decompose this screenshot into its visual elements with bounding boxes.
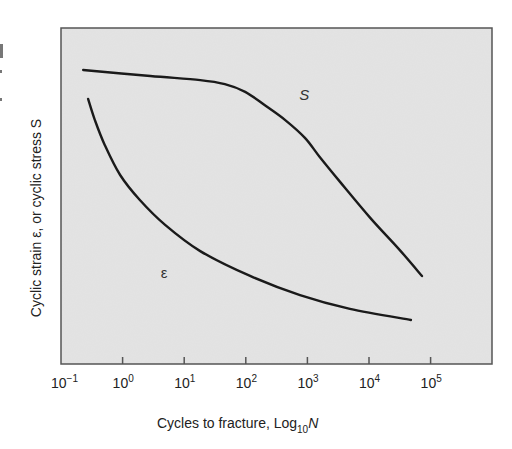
plot-texture bbox=[61, 28, 492, 364]
y-axis-title: Cyclic strain ε, or cyclic stress S bbox=[28, 119, 44, 317]
x-axis-title: Cycles to fracture, Log10N bbox=[157, 415, 319, 435]
x-axis-title-var: N bbox=[308, 415, 319, 431]
curve-label-s: S bbox=[299, 86, 309, 103]
x-tick-label: 102 bbox=[236, 373, 258, 391]
x-axis-title-main: Cycles to fracture, Log bbox=[157, 415, 297, 431]
x-tick-label: 103 bbox=[297, 373, 319, 391]
x-tick-label: 10−1 bbox=[51, 373, 78, 391]
fatigue-chart: 10−1100101102103104105 S ε Cyclic strain… bbox=[0, 0, 512, 449]
x-tick-label: 100 bbox=[113, 373, 135, 391]
x-tick-label: 105 bbox=[421, 373, 443, 391]
x-tick-label: 101 bbox=[174, 373, 196, 391]
curve-label-epsilon: ε bbox=[161, 264, 168, 281]
x-axis-title-sub: 10 bbox=[297, 424, 309, 435]
x-tick-label: 104 bbox=[359, 373, 381, 391]
x-tick-labels: 10−1100101102103104105 bbox=[51, 373, 442, 391]
